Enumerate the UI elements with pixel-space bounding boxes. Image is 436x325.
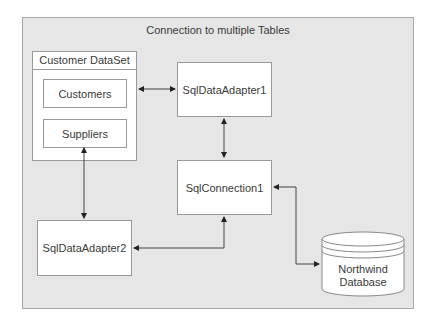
northwind-database: Northwind Database [321,263,405,289]
link-adapter2-connection [134,217,224,248]
link-connection-database [274,187,319,264]
database-label-line1: Northwind [321,263,405,276]
database-label-line2: Database [321,276,405,289]
